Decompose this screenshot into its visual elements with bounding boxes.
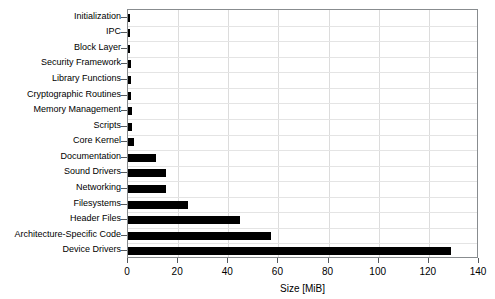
horizontal-gridline: [128, 243, 477, 244]
bar: [128, 107, 132, 115]
vertical-gridline: [429, 10, 430, 257]
y-axis-label: Block Layer: [74, 43, 121, 52]
bar: [128, 201, 188, 209]
vertical-gridline: [278, 10, 279, 257]
horizontal-gridline: [128, 197, 477, 198]
y-axis-label: Documentation: [60, 152, 121, 161]
x-axis-tick-label: 0: [124, 266, 130, 277]
bar-chart: InitializationIPCBlock LayerSecurity Fra…: [0, 0, 495, 299]
x-axis-tick: [478, 258, 479, 263]
horizontal-gridline: [128, 103, 477, 104]
x-axis-tick-label: 60: [272, 266, 283, 277]
bar: [128, 45, 130, 53]
bar: [128, 92, 131, 100]
bar: [128, 169, 166, 177]
y-axis-label: Cryptographic Routines: [27, 90, 121, 99]
bar: [128, 138, 134, 146]
x-axis-ticks: [127, 258, 478, 264]
x-axis-tick: [328, 258, 329, 263]
bar: [128, 76, 131, 84]
x-axis-tick: [378, 258, 379, 263]
x-axis-tick: [227, 258, 228, 263]
y-axis-label: Security Framework: [41, 58, 121, 67]
horizontal-gridline: [128, 88, 477, 89]
x-axis-tick-label: 40: [222, 266, 233, 277]
x-axis-tick: [127, 258, 128, 263]
x-axis-tick: [277, 258, 278, 263]
horizontal-gridline: [128, 26, 477, 27]
plot-area: [127, 9, 478, 258]
y-axis-label: Header Files: [70, 214, 121, 223]
x-axis-tick: [177, 258, 178, 263]
vertical-gridline: [329, 10, 330, 257]
y-axis-label: Networking: [76, 183, 121, 192]
y-axis-label: Sound Drivers: [64, 167, 121, 176]
horizontal-gridline: [128, 119, 477, 120]
bar: [128, 60, 131, 68]
bar: [128, 232, 271, 240]
y-axis-label: Device Drivers: [62, 245, 121, 254]
x-axis-title: Size [MiB]: [127, 283, 478, 294]
horizontal-gridline: [128, 212, 477, 213]
y-axis-label: Scripts: [93, 121, 121, 130]
y-axis-label: Memory Management: [33, 105, 121, 114]
bar: [128, 14, 130, 22]
horizontal-gridline: [128, 181, 477, 182]
y-axis-label: IPC: [106, 27, 121, 36]
x-axis-tick-label: 20: [172, 266, 183, 277]
bar: [128, 247, 451, 255]
horizontal-gridline: [128, 57, 477, 58]
x-axis-tick-label: 100: [369, 266, 386, 277]
horizontal-gridline: [128, 228, 477, 229]
x-axis-tick-label: 140: [470, 266, 487, 277]
horizontal-gridline: [128, 166, 477, 167]
horizontal-gridline: [128, 135, 477, 136]
bar: [128, 185, 166, 193]
bar: [128, 123, 132, 131]
y-axis-label: Initialization: [74, 12, 121, 21]
bar: [128, 216, 240, 224]
y-axis-labels: InitializationIPCBlock LayerSecurity Fra…: [0, 9, 121, 258]
horizontal-gridline: [128, 41, 477, 42]
horizontal-gridline: [128, 150, 477, 151]
bar: [128, 154, 156, 162]
y-axis-label: Architecture-Specific Code: [14, 230, 121, 239]
x-axis-tick: [428, 258, 429, 263]
x-axis-tick-label: 80: [322, 266, 333, 277]
y-axis-label: Filesystems: [73, 199, 121, 208]
x-axis-tick-label: 120: [420, 266, 437, 277]
horizontal-gridline: [128, 72, 477, 73]
vertical-gridline: [379, 10, 380, 257]
bar: [128, 29, 130, 37]
y-axis-label: Library Functions: [52, 74, 121, 83]
y-axis-label: Core Kernel: [73, 136, 121, 145]
